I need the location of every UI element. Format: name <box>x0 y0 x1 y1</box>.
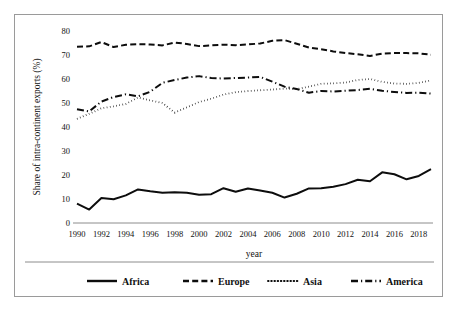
x-tick-label: 2014 <box>361 229 379 239</box>
y-tick-label: 60 <box>62 74 71 84</box>
series-line-africa <box>77 169 431 209</box>
y-tick-label: 0 <box>66 218 70 228</box>
x-tick-label: 1994 <box>117 229 135 239</box>
x-tick-label: 2006 <box>264 229 281 239</box>
y-axis-title: Share of intra-continent exports (%) <box>32 58 43 195</box>
legend-label-africa: Africa <box>122 276 149 287</box>
series-line-asia <box>77 79 431 119</box>
x-tick-label: 2012 <box>337 229 354 239</box>
y-tick-label: 10 <box>62 194 71 204</box>
y-tick-label: 80 <box>62 26 71 36</box>
figure-frame: 01020304050607080 1990199219941996199820… <box>14 14 443 297</box>
x-tick-label: 2008 <box>288 229 305 239</box>
x-axis-title: year <box>246 249 263 259</box>
y-tick-label: 30 <box>62 146 71 156</box>
y-axis-tick-labels: 01020304050607080 <box>62 26 71 228</box>
x-tick-label: 2016 <box>386 229 403 239</box>
x-tick-label: 1996 <box>142 229 159 239</box>
x-tick-label: 2000 <box>191 229 208 239</box>
x-tick-label: 2010 <box>313 229 330 239</box>
x-tick-label: 1998 <box>166 229 183 239</box>
x-tick-label: 1990 <box>69 229 86 239</box>
y-tick-label: 50 <box>62 98 71 108</box>
y-tick-label: 40 <box>62 122 71 132</box>
series-group <box>77 40 431 209</box>
legend-label-europe: Europe <box>218 276 250 287</box>
series-line-europe <box>77 40 431 56</box>
x-tick-label: 2004 <box>239 229 257 239</box>
x-tick-label: 1992 <box>93 229 110 239</box>
legend-label-america: America <box>386 276 423 287</box>
legend-label-asia: Asia <box>303 276 322 287</box>
chart-legend: AfricaEuropeAsiaAmerica <box>87 276 423 287</box>
y-tick-label: 70 <box>62 50 71 60</box>
y-tick-label: 20 <box>62 170 71 180</box>
line-chart: 01020304050607080 1990199219941996199820… <box>15 15 444 298</box>
x-axis-tick-labels: 1990199219941996199820002002200420062008… <box>69 229 428 239</box>
x-tick-label: 2002 <box>215 229 232 239</box>
x-tick-label: 2018 <box>410 229 427 239</box>
